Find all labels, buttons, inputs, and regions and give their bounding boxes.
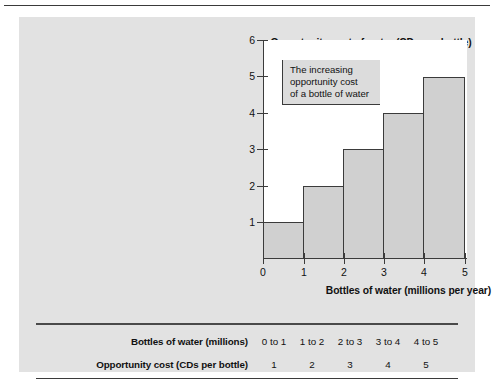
y-tick-1 xyxy=(257,222,268,223)
table-cell: 3 to 4 xyxy=(370,336,408,347)
annotation-line-2: opportunity cost xyxy=(290,76,374,88)
table-cell: 2 to 3 xyxy=(332,336,370,347)
x-tick-label-1: 1 xyxy=(293,267,315,278)
x-tick-3 xyxy=(384,253,385,264)
bar-1-to-2 xyxy=(303,186,344,259)
table-row-header: Bottles of water (millions) xyxy=(36,336,256,347)
annotation-line-3: of a bottle of water xyxy=(290,88,374,100)
table-cell: 2 xyxy=(294,359,332,370)
x-tick-2 xyxy=(344,253,345,264)
table-cell: 1 xyxy=(256,359,294,370)
bar-3-to-4 xyxy=(383,113,424,259)
x-tick-label-5: 5 xyxy=(454,267,476,278)
x-tick-label-3: 3 xyxy=(373,267,395,278)
x-tick-label-0: 0 xyxy=(252,267,274,278)
x-tick-4 xyxy=(424,253,425,264)
table-cell: 4 xyxy=(370,359,408,370)
x-axis-line xyxy=(263,258,467,259)
table-top-rule xyxy=(36,323,458,325)
table-cell: 0 to 1 xyxy=(256,336,294,347)
y-tick-label-5: 5 xyxy=(233,71,255,82)
x-tick-label-2: 2 xyxy=(333,267,355,278)
y-tick-3 xyxy=(257,149,268,150)
table-row: Bottles of water (millions) 0 to 1 1 to … xyxy=(36,331,458,351)
table-cell: 3 xyxy=(332,359,370,370)
y-tick-label-3: 3 xyxy=(233,144,255,155)
table-bottom-rule xyxy=(36,378,458,379)
x-tick-0 xyxy=(263,253,264,264)
bar-0-to-1 xyxy=(263,222,304,259)
y-tick-6 xyxy=(257,40,268,41)
y-tick-label-6: 6 xyxy=(233,35,255,46)
table-cell: 5 xyxy=(408,359,446,370)
y-tick-label-4: 4 xyxy=(233,108,255,119)
table-row: Opportunity cost (CDs per bottle) 1 2 3 … xyxy=(36,354,458,374)
x-tick-label-4: 4 xyxy=(413,267,435,278)
y-tick-4 xyxy=(257,113,268,114)
table-cell: 1 to 2 xyxy=(294,336,332,347)
y-tick-2 xyxy=(257,186,268,187)
annotation-callout: The increasing opportunity cost of a bot… xyxy=(282,60,380,105)
table-row-header: Opportunity cost (CDs per bottle) xyxy=(36,359,256,370)
bar-4-to-5 xyxy=(423,77,465,259)
y-tick-5 xyxy=(257,76,268,77)
x-axis-title: Bottles of water (millions per year) xyxy=(255,285,491,296)
y-tick-label-2: 2 xyxy=(233,181,255,192)
y-tick-label-1: 1 xyxy=(233,217,255,228)
annotation-line-1: The increasing xyxy=(290,64,374,76)
figure-panel: Opportunity cost of water (CDs per bottl… xyxy=(19,17,475,372)
bar-2-to-3 xyxy=(343,149,384,259)
x-tick-1 xyxy=(304,253,305,264)
table-cell: 4 to 5 xyxy=(408,336,446,347)
x-tick-5 xyxy=(465,253,466,264)
top-divider-rule xyxy=(4,5,490,6)
